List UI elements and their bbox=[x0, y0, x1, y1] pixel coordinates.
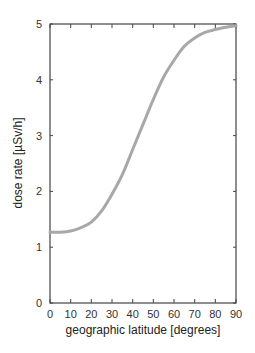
x-tick-label: 30 bbox=[106, 308, 118, 320]
x-tick-label: 20 bbox=[85, 308, 97, 320]
y-tick-label: 0 bbox=[36, 297, 42, 309]
y-tick-label: 4 bbox=[36, 74, 42, 86]
y-tick-label: 1 bbox=[36, 241, 42, 253]
y-axis-label: dose rate [µSv/h] bbox=[11, 118, 25, 209]
x-tick-label: 70 bbox=[189, 308, 201, 320]
y-axis-ticks: 012345 bbox=[36, 18, 236, 309]
x-axis-label: geographic latitude [degrees] bbox=[66, 323, 221, 337]
x-tick-label: 40 bbox=[127, 308, 139, 320]
x-axis-ticks: 0102030405060708090 bbox=[47, 24, 242, 320]
x-tick-label: 60 bbox=[168, 308, 180, 320]
x-tick-label: 90 bbox=[230, 308, 242, 320]
dose-rate-curve bbox=[50, 26, 236, 233]
x-tick-label: 0 bbox=[47, 308, 53, 320]
x-tick-label: 10 bbox=[65, 308, 77, 320]
plot-border bbox=[50, 24, 236, 303]
y-tick-label: 2 bbox=[36, 185, 42, 197]
y-tick-label: 3 bbox=[36, 130, 42, 142]
y-tick-label: 5 bbox=[36, 18, 42, 30]
x-tick-label: 50 bbox=[147, 308, 159, 320]
plot-frame bbox=[50, 24, 236, 303]
x-tick-label: 80 bbox=[209, 308, 221, 320]
dose-rate-chart: 0102030405060708090 012345 geographic la… bbox=[0, 0, 255, 353]
